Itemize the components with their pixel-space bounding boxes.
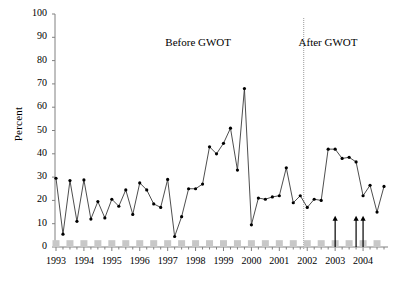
data-line-path [56,89,384,237]
data-point-marker [124,188,127,191]
data-point-marker [166,178,169,181]
baseline-square-marker [108,240,115,247]
data-point-marker [194,187,197,190]
baseline-square-marker [206,240,213,247]
data-point-marker [271,195,274,198]
data-point-marker [264,198,267,201]
data-point-marker [145,188,148,191]
data-point-marker [292,201,295,204]
data-point-marker [61,233,64,236]
data-point-marker [222,142,225,145]
data-point-marker [368,184,371,187]
data-point-marker [229,127,232,130]
baseline-square-marker [94,240,101,247]
data-point-marker [306,206,309,209]
baseline-square-marker [164,240,171,247]
data-point-marker [257,196,260,199]
chart-container: Percent 0102030405060708090100 199319941… [0,0,402,282]
data-point-marker [313,198,316,201]
data-point-marker [152,202,155,205]
arrow-head [333,216,338,221]
data-line-series [56,89,384,237]
data-point-marker [96,200,99,203]
data-point-marker [180,215,183,218]
data-point-marker [299,194,302,197]
baseline-square-marker [192,240,199,247]
baseline-square-marker [122,240,129,247]
data-point-marker [250,223,253,226]
data-point-marker [208,145,211,148]
data-point-marker [68,179,71,182]
event-arrow-2 [353,216,358,247]
data-point-marker [236,169,239,172]
data-point-marker [138,181,141,184]
data-point-marker [243,87,246,90]
data-point-marker [382,185,385,188]
data-point-marker [103,216,106,219]
baseline-square-marker [178,240,185,247]
baseline-square-marker [262,240,269,247]
data-point-marker [341,157,344,160]
baseline-square-marker [248,240,255,247]
data-point-marker [215,152,218,155]
data-point-marker [285,166,288,169]
baseline-square-marker [66,240,73,247]
data-point-marker [348,156,351,159]
data-point-marker [110,198,113,201]
baseline-square-marker [290,240,297,247]
data-point-marker [54,177,57,180]
data-point-marker [201,182,204,185]
chart-axes [52,14,388,251]
data-point-marker [361,194,364,197]
baseline-square-marker [150,240,157,247]
data-point-marker [327,148,330,151]
data-point-marker [159,206,162,209]
data-point-marker [117,205,120,208]
data-point-marker [354,160,357,163]
arrow-head [360,216,365,221]
baseline-square-marker [80,240,87,247]
baseline-square-marker [304,240,311,247]
data-point-marker [89,217,92,220]
data-point-marker [75,220,78,223]
baseline-square-markers [53,240,381,247]
baseline-square-marker [220,240,227,247]
baseline-square-marker [136,240,143,247]
baseline-square-marker [53,240,60,247]
baseline-square-marker [276,240,283,247]
data-point-marker [131,213,134,216]
baseline-square-marker [318,240,325,247]
data-point-marker [320,199,323,202]
chart-plot-area [0,0,402,282]
data-point-marker [82,178,85,181]
data-point-marker [375,210,378,213]
arrow-head [353,216,358,221]
baseline-square-marker [234,240,241,247]
data-point-marker [187,187,190,190]
baseline-square-marker [346,240,353,247]
data-point-marker [334,148,337,151]
data-point-marker [173,235,176,238]
baseline-square-marker [374,240,381,247]
data-point-marker [278,194,281,197]
